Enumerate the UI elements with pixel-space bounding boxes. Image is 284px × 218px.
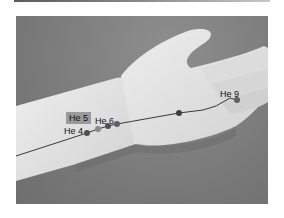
point-he4-dot — [84, 130, 90, 136]
hand-illustration — [16, 16, 268, 204]
point-he8-dot — [176, 110, 182, 116]
label-he6: He 6 — [95, 116, 114, 126]
label-he4: He 4 — [64, 126, 83, 136]
hand-photo: He 5 He 6 He 4 He 9 — [16, 16, 268, 204]
top-divider — [14, 0, 270, 2]
point-he7-dot — [114, 121, 120, 127]
label-he5: He 5 — [66, 112, 91, 124]
label-he9: He 9 — [220, 89, 239, 99]
point-he5-dot — [95, 126, 101, 132]
